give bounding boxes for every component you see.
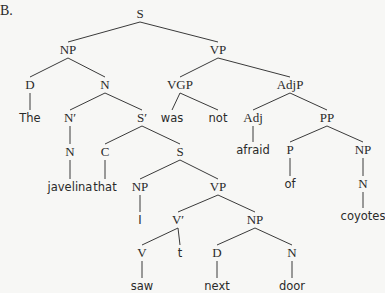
tree-leaf-word: was [161, 111, 183, 125]
tree-edge [172, 93, 180, 110]
tree-node-category: N [287, 245, 297, 260]
tree-edge [105, 126, 142, 144]
tree-edge [178, 195, 218, 212]
tree-node-category: VGP [167, 77, 193, 92]
tree-node-category: N [358, 176, 368, 191]
tree-edge [105, 93, 142, 110]
tree-edge [218, 195, 255, 212]
tree-node-category: NP [355, 142, 372, 157]
tree-node-category: N [65, 144, 75, 159]
tree-node-category: D [25, 77, 34, 92]
tree-edge [290, 126, 327, 142]
tree-edges [30, 22, 363, 278]
tree-node-category: Adj [243, 110, 263, 125]
tree-leaf-word: javelina [47, 180, 93, 194]
tree-node-category: VP [210, 179, 227, 194]
tree-leaf-word: The [18, 111, 40, 125]
tree-node-category: NP [132, 179, 149, 194]
tree-edge [217, 228, 255, 245]
tree-node-category: V [137, 245, 147, 260]
tree-node-category: AdjP [277, 77, 304, 92]
tree-edge [255, 228, 292, 245]
tree-leaf-word: of [284, 177, 296, 191]
tree-node-category: VP [210, 42, 227, 57]
tree-node-category: S [136, 6, 143, 21]
tree-node-category: PP [320, 110, 334, 125]
tree-edge [30, 58, 68, 77]
tree-edge [253, 93, 290, 110]
tree-leaf-word: next [204, 279, 230, 293]
tree-leaf-word: door [279, 279, 305, 293]
tree-leaf-word: saw [131, 279, 153, 293]
tree-leaf-word: coyotes [341, 209, 385, 223]
tree-edge [218, 58, 290, 77]
tree-node-category: D [212, 245, 221, 260]
tree-nodes: SNPVPDNVGPAdjPTheN′S′wasnotAdjPPNCSafrai… [18, 6, 385, 293]
tree-node-category: P [286, 142, 293, 157]
tree-node-category: S′ [137, 110, 147, 125]
tree-edge [180, 160, 218, 179]
tree-leaf-word: not [209, 111, 228, 125]
tree-edge [68, 58, 105, 77]
syntax-tree: SNPVPDNVGPAdjPTheN′S′wasnotAdjPPNCSafrai… [0, 0, 385, 293]
tree-edge [140, 160, 180, 179]
tree-edge [180, 93, 218, 110]
tree-edge [140, 22, 218, 42]
tree-node-category: S [176, 144, 183, 159]
tree-node-category: NP [247, 212, 264, 227]
tree-node-category: N′ [64, 110, 76, 125]
tree-edge [70, 93, 105, 110]
tree-node-category: N [100, 77, 110, 92]
tree-edge [327, 126, 363, 142]
tree-node-category: NP [60, 42, 77, 57]
tree-edge [178, 228, 180, 245]
tree-node-category: V′ [172, 212, 184, 227]
tree-edge [142, 228, 178, 245]
tree-leaf-word: t [178, 246, 183, 260]
tree-edge [142, 126, 180, 144]
tree-edge [290, 93, 327, 110]
tree-edge [180, 58, 218, 77]
tree-leaf-word: I [138, 213, 141, 227]
tree-node-category: C [101, 144, 110, 159]
tree-edge [68, 22, 140, 42]
tree-leaf-word: afraid [236, 143, 269, 157]
tree-leaf-word: that [93, 180, 117, 194]
